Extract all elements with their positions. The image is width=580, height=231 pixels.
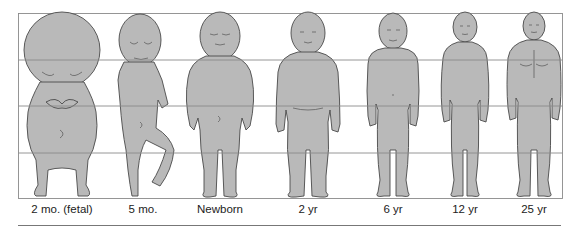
figure-25yr (507, 12, 561, 197)
stage-label-2yr: 2 yr (268, 203, 348, 215)
figure-6yr (367, 13, 419, 197)
stage-label-25yr: 25 yr (494, 203, 574, 215)
body-proportions-diagram: .b { fill: #b9b9b9; stroke: #4a4a4a; str… (0, 0, 580, 231)
figure-12yr (441, 12, 489, 197)
stage-label-12yr: 12 yr (425, 203, 505, 215)
figure-5mo (118, 14, 174, 196)
stage-label-2mo: 2 mo. (fetal) (22, 203, 102, 215)
figure-2mo-fetal (24, 12, 100, 196)
figure-2yr (276, 12, 340, 197)
stage-label-6yr: 6 yr (353, 203, 433, 215)
stage-label-newborn: Newborn (180, 203, 260, 215)
bottom-separator-line (18, 225, 561, 226)
stage-label-5mo: 5 mo. (103, 203, 183, 215)
figure-newborn (186, 12, 253, 197)
